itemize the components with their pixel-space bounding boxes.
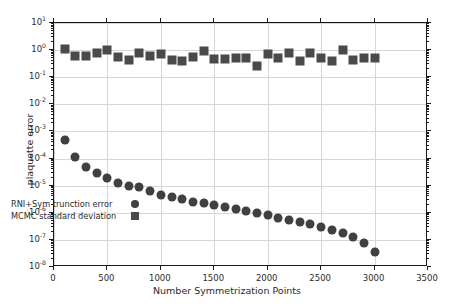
y-tick-minor-right	[427, 52, 429, 53]
data-point	[263, 49, 272, 58]
y-tick-minor-right	[427, 90, 429, 91]
y-tick-minor	[51, 193, 53, 194]
y-tick-minor-right	[427, 28, 429, 29]
y-tick-minor	[51, 226, 53, 227]
y-tick-minor	[51, 253, 53, 254]
data-point	[274, 54, 283, 63]
gridline-horizontal	[54, 104, 426, 105]
data-point	[188, 53, 197, 62]
data-point	[306, 48, 315, 57]
y-tick-minor	[51, 118, 53, 119]
data-point	[135, 48, 144, 57]
y-tick-minor-right	[427, 82, 429, 83]
y-tick	[49, 185, 53, 186]
y-tick-right	[427, 212, 431, 213]
y-tick-minor	[51, 191, 53, 192]
data-point	[285, 215, 294, 224]
y-tick-minor-right	[427, 186, 429, 187]
y-tick-minor	[51, 79, 53, 80]
y-tick-minor	[51, 133, 53, 134]
data-point	[274, 213, 283, 222]
y-tick-minor-right	[427, 149, 429, 150]
data-point	[327, 56, 336, 65]
y-tick-minor	[51, 132, 53, 133]
y-tick-minor	[51, 25, 53, 26]
data-point	[349, 56, 358, 65]
y-tick-minor	[51, 80, 53, 81]
y-tick-minor-right	[427, 111, 429, 112]
y-tick-minor-right	[427, 136, 429, 137]
data-point	[124, 181, 133, 190]
data-point	[82, 52, 91, 61]
y-tick-label: 10-7	[0, 234, 46, 244]
y-tick-minor	[51, 141, 53, 142]
legend-item-rni-sym-truncation-error: RNI+Sym trunction error	[11, 198, 143, 210]
y-tick-minor	[51, 172, 53, 173]
y-tick-minor-right	[427, 213, 429, 214]
legend-label-rni-sym-truncation-error: RNI+Sym trunction error	[11, 199, 112, 209]
y-tick-minor-right	[427, 166, 429, 167]
y-tick-minor	[51, 87, 53, 88]
y-tick-minor	[51, 186, 53, 187]
y-tick-minor-right	[427, 199, 429, 200]
x-tick-label: 0	[50, 273, 55, 283]
y-tick-minor	[51, 136, 53, 137]
data-point	[92, 169, 101, 178]
data-point	[210, 201, 219, 210]
y-tick-minor	[51, 139, 53, 140]
y-tick-minor-right	[427, 191, 429, 192]
y-tick-minor-right	[427, 204, 429, 205]
data-point	[370, 248, 379, 257]
y-tick-minor-right	[427, 63, 429, 64]
y-tick	[49, 158, 53, 159]
y-tick-right	[427, 103, 431, 104]
y-tick-minor	[51, 242, 53, 243]
gridline-vertical	[161, 23, 162, 265]
y-tick	[49, 103, 53, 104]
y-tick-right	[427, 49, 431, 50]
y-tick-minor	[51, 159, 53, 160]
y-tick-minor-right	[427, 164, 429, 165]
y-tick-minor-right	[427, 214, 429, 215]
data-point	[231, 205, 240, 214]
y-tick-right	[427, 76, 431, 77]
y-tick-minor	[51, 23, 53, 24]
y-tick-minor-right	[427, 57, 429, 58]
y-tick-label: 10-8	[0, 261, 46, 271]
y-tick-minor-right	[427, 135, 429, 136]
data-point	[103, 174, 112, 183]
data-point	[156, 190, 165, 199]
data-point	[156, 49, 165, 58]
data-point	[60, 135, 69, 144]
y-tick-minor-right	[427, 253, 429, 254]
y-tick-minor-right	[427, 187, 429, 188]
y-tick-minor	[51, 52, 53, 53]
data-point	[242, 207, 251, 216]
data-point	[317, 54, 326, 63]
data-point	[114, 53, 123, 62]
y-tick-minor	[51, 149, 53, 150]
y-tick-minor-right	[427, 95, 429, 96]
data-point	[253, 209, 262, 218]
x-tick-top	[320, 18, 321, 22]
legend-item-mcmc-standard-deviation: MCMC standard deviation	[11, 210, 143, 222]
data-point	[188, 197, 197, 206]
y-tick-minor-right	[427, 220, 429, 221]
x-axis-label: Number Symmetrization Points	[0, 285, 454, 296]
y-tick-minor	[51, 105, 53, 106]
y-tick	[49, 130, 53, 131]
gridline-vertical	[268, 23, 269, 265]
data-point	[71, 51, 80, 60]
data-point	[253, 61, 262, 70]
data-point	[359, 238, 368, 247]
y-tick-right	[427, 158, 431, 159]
data-point	[167, 56, 176, 65]
y-tick-minor-right	[427, 195, 429, 196]
y-tick-minor-right	[427, 243, 429, 244]
x-tick-top	[160, 18, 161, 22]
x-tick	[374, 266, 375, 270]
y-tick-minor	[51, 109, 53, 110]
y-tick-minor	[51, 26, 53, 27]
y-tick-minor	[51, 30, 53, 31]
y-tick-minor-right	[427, 55, 429, 56]
